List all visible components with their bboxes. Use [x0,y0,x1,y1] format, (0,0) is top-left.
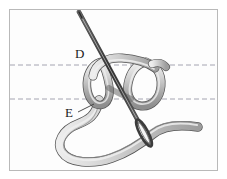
stitch-diagram-canvas [0,0,227,179]
label-d: D [75,47,84,60]
label-e: E [65,106,73,119]
thread-tail-lower [60,100,198,162]
thread-knot-right-nub [152,63,166,67]
figure-root: D E [0,0,227,179]
